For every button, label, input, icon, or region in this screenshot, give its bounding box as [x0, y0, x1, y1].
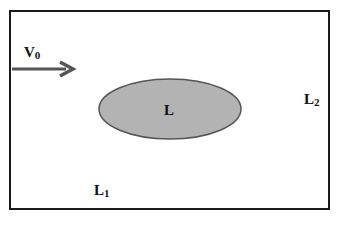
velocity-label: V0 [24, 45, 40, 61]
ellipse-label: L [164, 103, 174, 118]
velocity-arrow-icon [12, 62, 73, 76]
region-right-label: L2 [304, 92, 320, 108]
region-left-label: L1 [94, 183, 110, 199]
